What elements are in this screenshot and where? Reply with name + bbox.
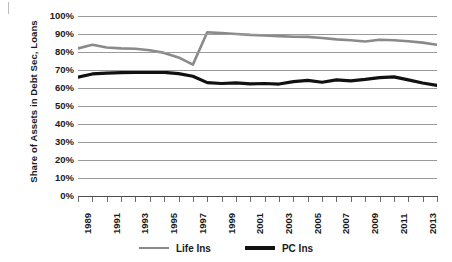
x-tick-label: 1991 — [111, 213, 122, 234]
x-tick-label: 1993 — [139, 213, 150, 234]
x-tick-label: 2011 — [398, 213, 409, 234]
x-tick-label: 2003 — [283, 213, 294, 234]
legend-label: Life Ins — [176, 243, 211, 254]
x-tick-label: 1995 — [168, 213, 179, 234]
legend-item[interactable]: PC Ins — [245, 243, 313, 254]
x-tick-label: 1999 — [226, 213, 237, 234]
x-tick-label: 2013 — [427, 213, 438, 234]
legend-swatch — [139, 247, 169, 250]
x-tick-label: 2009 — [369, 213, 380, 234]
x-axis-tick-labels: 1989199119931995199719992001200320052007… — [0, 0, 452, 262]
x-tick-label: 2005 — [312, 213, 323, 234]
x-tick-label: 1989 — [82, 213, 93, 234]
legend-label: PC Ins — [282, 243, 313, 254]
legend-item[interactable]: Life Ins — [139, 243, 211, 254]
x-tick-label: 2007 — [340, 213, 351, 234]
chart-figure: Share of Assets in Debt Sec, Loans 100%9… — [0, 0, 452, 262]
legend-swatch — [245, 246, 275, 249]
chart-legend: Life InsPC Ins — [0, 240, 452, 256]
x-tick-label: 1997 — [197, 213, 208, 234]
x-tick-label: 2001 — [254, 213, 265, 234]
